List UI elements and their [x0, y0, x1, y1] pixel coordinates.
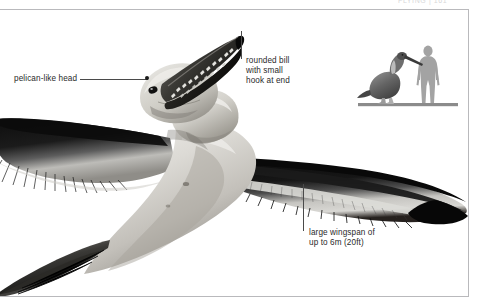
illustration-page: FLYING | 161 — [0, 0, 482, 302]
scale-ground-line — [358, 103, 458, 106]
page-rule-right — [468, 9, 469, 297]
leader-line-bill — [241, 31, 242, 59]
callout-pelican-like-head: pelican-like head — [14, 74, 106, 84]
bird-silhouette — [357, 52, 423, 104]
scale-comparison-inset — [356, 40, 460, 112]
page-rule-bottom — [0, 296, 469, 297]
leader-dot-head — [145, 76, 149, 80]
running-head: FLYING | 161 — [398, 0, 470, 5]
human-silhouette — [417, 46, 440, 103]
callout-rounded-bill: rounded bill with small hook at end — [246, 56, 324, 87]
leader-line-wingspan — [303, 184, 304, 231]
callout-large-wingspan: large wingspan of up to 6m (20ft) — [309, 228, 395, 248]
bird-bill — [404, 55, 423, 66]
